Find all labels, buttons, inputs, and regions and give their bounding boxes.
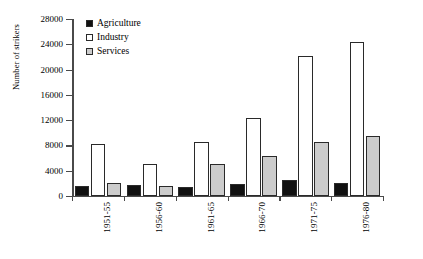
bar-industry bbox=[143, 164, 158, 196]
bar-industry bbox=[298, 56, 313, 196]
bar-group bbox=[178, 19, 225, 196]
bar-group bbox=[334, 19, 381, 196]
y-axis-line bbox=[72, 19, 74, 196]
y-tick-label: 24000 bbox=[41, 39, 64, 49]
x-tick bbox=[331, 196, 332, 201]
y-tick bbox=[66, 120, 73, 121]
bar-industry bbox=[91, 144, 106, 196]
legend-label-industry: Industry bbox=[97, 32, 129, 42]
y-tick bbox=[66, 95, 73, 96]
x-tick bbox=[72, 196, 73, 201]
y-tick bbox=[66, 171, 73, 172]
bar-group bbox=[230, 19, 277, 196]
y-tick-label: 20000 bbox=[41, 65, 64, 75]
x-tick-label: 1971-75 bbox=[309, 202, 319, 233]
x-tick-label: 1956-60 bbox=[154, 202, 164, 233]
y-tick-label: 12000 bbox=[41, 115, 64, 125]
x-tick bbox=[279, 196, 280, 201]
y-tick bbox=[66, 145, 73, 146]
x-tick-label: 1966-70 bbox=[257, 202, 267, 233]
x-tick-label: 1961-65 bbox=[206, 202, 216, 233]
bar-agriculture bbox=[230, 184, 245, 196]
x-tick-label: 1951-55 bbox=[102, 202, 112, 233]
bar-services bbox=[366, 136, 381, 196]
bar-services bbox=[314, 142, 329, 196]
legend-label-services: Services bbox=[97, 46, 129, 56]
bar-agriculture bbox=[75, 186, 90, 196]
bar-services bbox=[107, 183, 122, 196]
legend-item-services: Services bbox=[86, 44, 141, 58]
legend-item-agriculture: Agriculture bbox=[86, 16, 141, 30]
legend-swatch-services-icon bbox=[86, 48, 93, 55]
bar-agriculture bbox=[178, 187, 193, 196]
y-tick-label: 16000 bbox=[41, 90, 64, 100]
bar-services bbox=[210, 164, 225, 196]
y-axis-title: Number of strikers bbox=[11, 0, 21, 117]
y-tick-label: 0 bbox=[59, 191, 64, 201]
x-tick-label: 1976-80 bbox=[361, 202, 371, 233]
y-tick-label: 4000 bbox=[45, 166, 63, 176]
legend-item-industry: Industry bbox=[86, 30, 141, 44]
bar-industry bbox=[194, 142, 209, 196]
y-tick bbox=[66, 44, 73, 45]
bar-industry bbox=[350, 42, 365, 196]
bar-agriculture bbox=[127, 185, 142, 196]
legend: Agriculture Industry Services bbox=[86, 16, 141, 58]
bar-services bbox=[262, 156, 277, 196]
y-tick bbox=[66, 19, 73, 20]
x-tick bbox=[176, 196, 177, 201]
legend-label-agriculture: Agriculture bbox=[97, 18, 141, 28]
x-tick bbox=[228, 196, 229, 201]
y-tick bbox=[66, 70, 73, 71]
x-tick bbox=[124, 196, 125, 201]
bar-services bbox=[159, 186, 174, 196]
legend-swatch-industry-icon bbox=[86, 34, 93, 41]
bar-industry bbox=[246, 118, 261, 196]
bar-chart: Number of strikers 040008000120001600020… bbox=[0, 0, 423, 259]
legend-swatch-agriculture-icon bbox=[86, 20, 93, 27]
bar-group bbox=[282, 19, 329, 196]
y-tick-label: 28000 bbox=[41, 14, 64, 24]
y-tick-label: 8000 bbox=[45, 140, 63, 150]
x-tick bbox=[383, 196, 384, 201]
bar-agriculture bbox=[334, 183, 349, 196]
bar-agriculture bbox=[282, 180, 297, 196]
